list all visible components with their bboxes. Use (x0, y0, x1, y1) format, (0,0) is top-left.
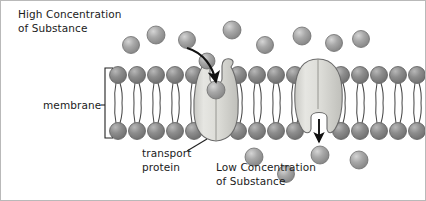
phospholipid-heads-left-outer (110, 67, 203, 84)
membrane-right-segment (333, 67, 426, 140)
low-concentration-label: Low Concentration of Substance (216, 161, 316, 188)
phospholipid-heads-middle-inner (230, 123, 304, 140)
membrane-middle-segment (230, 67, 304, 140)
membrane-label: membrane (43, 99, 101, 113)
phospholipid-tails-middle (235, 83, 300, 123)
phospholipid-heads-right-outer (333, 67, 426, 84)
phospholipid-heads-right-inner (333, 123, 426, 140)
transport-protein-left (194, 59, 238, 141)
bound-substance-particle (207, 81, 225, 99)
substance-particles-above (123, 21, 370, 69)
phospholipid-tails-left (115, 83, 199, 123)
transport-protein-label: transport protein (142, 147, 191, 174)
facilitated-diffusion-diagram: High Concentration of Substance membrane… (0, 0, 426, 201)
phospholipid-heads-left-inner (110, 123, 203, 140)
phospholipid-heads-middle-outer (230, 67, 304, 84)
high-concentration-label: High Concentration of Substance (18, 8, 122, 35)
phospholipid-tails-right (338, 83, 422, 123)
membrane-left-segment (110, 67, 203, 140)
